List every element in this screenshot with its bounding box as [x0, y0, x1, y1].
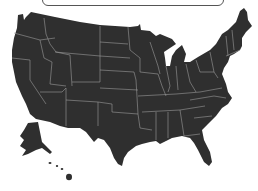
hawaii-island-2	[56, 165, 58, 167]
hawaii-island-4	[66, 174, 72, 180]
us-map	[0, 0, 258, 191]
hawaii-island-3	[61, 168, 64, 170]
hawaii-island-1	[49, 162, 52, 164]
alaska	[20, 122, 52, 156]
contiguous-us	[12, 8, 252, 166]
